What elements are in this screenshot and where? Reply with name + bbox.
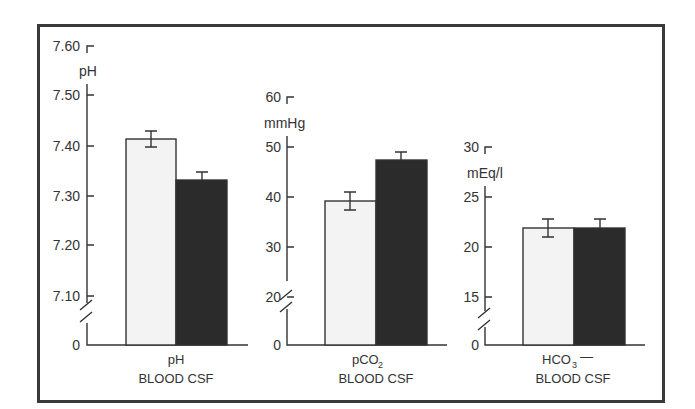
svg-text:20: 20 bbox=[265, 289, 281, 305]
svg-text:mmHg: mmHg bbox=[264, 115, 305, 131]
svg-text:pH: pH bbox=[168, 352, 185, 367]
svg-text:2: 2 bbox=[378, 360, 383, 370]
svg-text:0: 0 bbox=[72, 337, 80, 353]
svg-text:20: 20 bbox=[463, 239, 479, 255]
svg-text:BLOOD CSF: BLOOD CSF bbox=[338, 371, 413, 386]
svg-text:3: 3 bbox=[572, 360, 577, 370]
svg-text:pH: pH bbox=[79, 63, 97, 79]
svg-text:—: — bbox=[580, 349, 593, 364]
svg-text:50: 50 bbox=[265, 139, 281, 155]
svg-text:7.30: 7.30 bbox=[53, 188, 80, 204]
svg-text:7.40: 7.40 bbox=[53, 138, 80, 154]
bar-charts: 7.60 pH 7.50 7.40 7.30 7.20 7.10 0 pH BL… bbox=[0, 0, 695, 409]
svg-text:0: 0 bbox=[273, 337, 281, 353]
svg-text:25: 25 bbox=[463, 189, 479, 205]
svg-text:BLOOD CSF: BLOOD CSF bbox=[535, 371, 610, 386]
svg-text:60: 60 bbox=[265, 89, 281, 105]
panel-pco2 bbox=[280, 97, 447, 345]
panel-hco3 bbox=[478, 147, 645, 345]
svg-text:15: 15 bbox=[463, 289, 479, 305]
svg-text:7.60: 7.60 bbox=[53, 38, 80, 54]
svg-text:30: 30 bbox=[265, 239, 281, 255]
svg-text:40: 40 bbox=[265, 189, 281, 205]
svg-text:7.10: 7.10 bbox=[53, 288, 80, 304]
svg-text:BLOOD CSF: BLOOD CSF bbox=[138, 371, 213, 386]
svg-text:HCO: HCO bbox=[542, 352, 571, 367]
svg-text:7.20: 7.20 bbox=[53, 237, 80, 253]
svg-text:0: 0 bbox=[471, 337, 479, 353]
svg-text:7.50: 7.50 bbox=[53, 87, 80, 103]
panel-ph bbox=[80, 46, 248, 345]
svg-text:30: 30 bbox=[463, 139, 479, 155]
svg-text:mEq/l: mEq/l bbox=[467, 165, 503, 181]
svg-text:pCO: pCO bbox=[352, 352, 379, 367]
